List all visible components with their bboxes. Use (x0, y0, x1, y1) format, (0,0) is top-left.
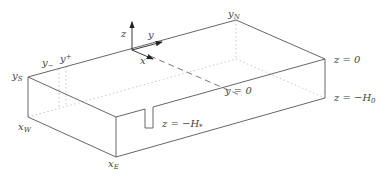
y-axis-arrow (132, 42, 162, 50)
label-y-zero: y = 0 (224, 85, 252, 96)
label-axis-x: x (140, 55, 146, 66)
label-y-s: yS (11, 70, 23, 83)
hidden-edges (28, 20, 325, 117)
label-z-top: z = 0 (333, 54, 361, 65)
label-axis-z: z (120, 28, 127, 39)
box-edges (28, 20, 325, 157)
label-x-e: xE (108, 158, 119, 171)
label-z-bottom: z = −H0 (333, 92, 376, 105)
label-y-plus: y+ (59, 53, 72, 64)
domain-diagram: z y x yN yS y− y+ xW xE z = 0 z = −H0 z … (0, 0, 390, 177)
coordinate-axes (132, 22, 162, 59)
label-x-w: xW (18, 121, 32, 134)
label-y-minus: y− (41, 57, 54, 70)
label-z-notch: z = −H* (161, 118, 203, 131)
label-y-n: yN (227, 8, 241, 21)
label-axis-y: y (147, 29, 154, 40)
